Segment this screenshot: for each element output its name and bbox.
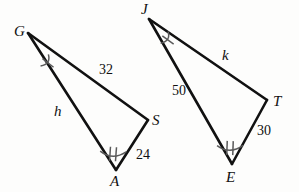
measure-label-je: 50 [172, 84, 186, 98]
vertex-label-g: G [14, 24, 25, 39]
vertex-label-a: A [110, 174, 119, 189]
segment-jt [149, 19, 267, 100]
vertex-label-t: T [273, 94, 281, 109]
segment-gs [28, 33, 148, 120]
triangle-gas [28, 33, 148, 170]
triangles-canvas [0, 0, 299, 192]
geometry-figure: G S A J T E 32 h 24 k 50 30 [0, 0, 299, 192]
measure-label-gs: 32 [99, 63, 113, 77]
angle-mark-g [38, 53, 58, 73]
measure-label-ga: h [54, 104, 62, 119]
vertex-label-j: J [141, 2, 148, 17]
segment-sa [116, 120, 148, 170]
measure-label-et: 30 [257, 124, 271, 138]
segment-ag [28, 33, 116, 170]
vertex-label-s: S [152, 113, 160, 128]
segment-ej [149, 19, 232, 164]
vertex-label-e: E [226, 170, 235, 185]
measure-label-jt: k [222, 48, 229, 63]
measure-label-as: 24 [136, 148, 150, 162]
